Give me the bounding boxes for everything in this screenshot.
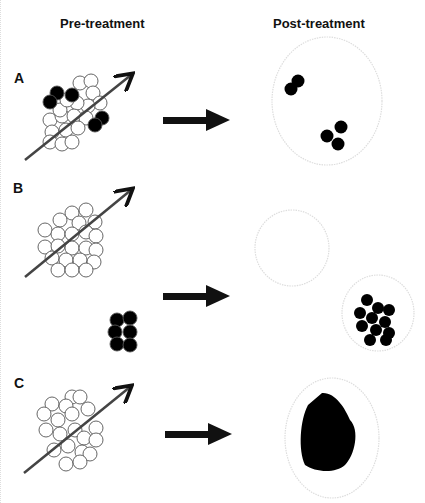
panel-c-tumor — [37, 390, 103, 471]
post-resistant-cells — [285, 75, 396, 472]
treatment-arrows — [163, 109, 232, 445]
diagram-canvas — [0, 0, 425, 503]
panel-b-resistant-clone — [108, 311, 137, 352]
